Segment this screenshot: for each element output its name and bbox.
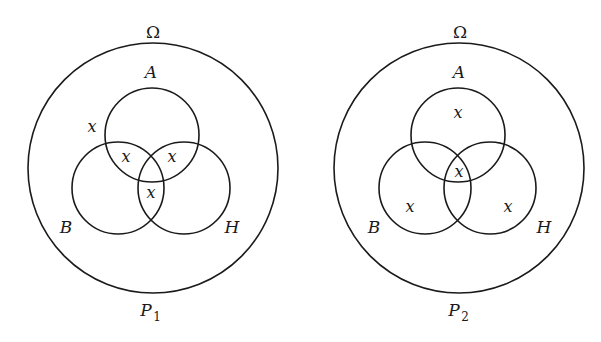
set-b-label: B: [59, 217, 73, 237]
diagram-p2: Ω A B H x x x x P 2: [334, 22, 584, 324]
caption-p2: P 2: [447, 300, 469, 324]
caption-main: P: [447, 300, 460, 320]
mark-b-and-h: x: [146, 183, 155, 202]
set-h-label: H: [224, 217, 241, 237]
mark-a-and-b: x: [121, 147, 130, 166]
set-a-label: A: [143, 62, 157, 82]
universe-label: Ω: [453, 22, 467, 42]
set-b-label: B: [367, 217, 381, 237]
caption-subscript: 1: [153, 310, 161, 324]
mark-a-b-h: x: [454, 162, 463, 181]
caption-main: P: [139, 300, 152, 320]
diagram-p1: Ω A B H x x x x P 1: [28, 22, 278, 324]
mark-a-and-h: x: [167, 147, 176, 166]
universe-label: Ω: [146, 22, 160, 42]
set-a-label: A: [451, 62, 465, 82]
caption-p1: P 1: [139, 300, 161, 324]
mark-outside: x: [87, 117, 96, 136]
caption-subscript: 2: [461, 310, 469, 324]
set-h-label: H: [536, 217, 553, 237]
mark-a-only: x: [453, 103, 462, 122]
set-h-circle: [444, 142, 536, 234]
mark-b-only: x: [405, 197, 414, 216]
venn-diagram-figure: Ω A B H x x x x P 1 Ω A B H x x x x P 2: [0, 0, 601, 342]
set-a-circle: [105, 88, 199, 182]
mark-h-only: x: [503, 197, 512, 216]
